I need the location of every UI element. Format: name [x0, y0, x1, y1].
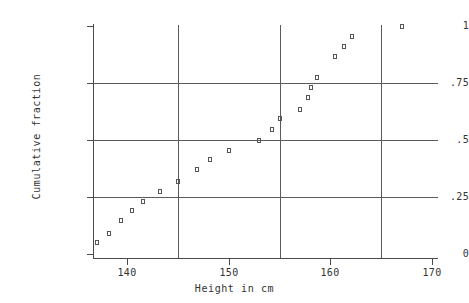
y-axis-line	[93, 24, 94, 259]
data-point-marker	[158, 189, 162, 194]
x-axis-tick	[432, 258, 433, 265]
x-axis-tick-label: 170	[412, 268, 452, 278]
x-axis-title: Height in cm	[0, 283, 469, 294]
x-axis-tick	[127, 258, 128, 265]
data-point-marker	[208, 157, 212, 162]
data-point-marker	[350, 34, 354, 39]
data-point-marker	[400, 24, 404, 29]
x-axis-line	[93, 258, 438, 259]
data-point-marker	[315, 75, 319, 80]
data-point-marker	[227, 148, 231, 153]
y-axis-title: Cumulative fraction	[31, 52, 42, 222]
data-point-marker	[306, 95, 310, 100]
x-axis-tick-label: 150	[209, 268, 249, 278]
data-point-marker	[270, 127, 274, 132]
x-axis-tick-label: 140	[107, 268, 147, 278]
gridline-vertical	[280, 25, 281, 258]
data-point-marker	[141, 199, 145, 204]
x-axis-tick	[330, 258, 331, 265]
gridline-vertical	[381, 25, 382, 258]
data-point-marker	[107, 231, 111, 236]
x-axis-tick	[229, 258, 230, 265]
data-point-marker	[309, 85, 313, 90]
cumulative-fraction-scatter-chart: 0.25.5.751140150160170 Height in cm Cumu…	[0, 0, 469, 303]
data-point-marker	[342, 44, 346, 49]
gridline-vertical	[178, 25, 179, 258]
x-axis-tick-label: 160	[310, 268, 350, 278]
data-point-marker	[130, 208, 134, 213]
data-point-marker	[95, 240, 99, 245]
y-axis-tick-label: .5	[385, 135, 469, 145]
data-point-marker	[119, 218, 123, 223]
data-point-marker	[257, 138, 261, 143]
data-point-marker	[176, 179, 180, 184]
y-axis-tick-label: .25	[385, 192, 469, 202]
y-axis-tick-label: 1	[385, 21, 469, 31]
y-axis-tick-label: .75	[385, 78, 469, 88]
data-point-marker	[195, 167, 199, 172]
data-point-marker	[298, 107, 302, 112]
data-point-marker	[278, 116, 282, 121]
data-point-marker	[333, 54, 337, 59]
